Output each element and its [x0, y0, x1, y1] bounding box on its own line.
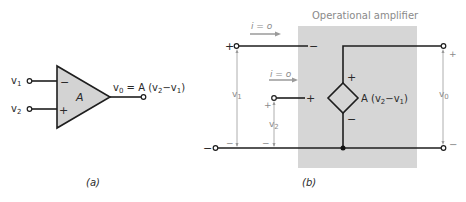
v0-label: v0	[439, 89, 449, 101]
v2-arrow-top	[273, 101, 276, 105]
v1-label: v1	[232, 89, 242, 101]
output-terminal	[141, 95, 146, 100]
v2-label: v2	[269, 119, 279, 131]
v2-minus-sign: −	[262, 138, 270, 148]
caption-a: (a)	[86, 177, 100, 188]
v0-plus-sign: +	[449, 49, 457, 59]
op-amp-diagram: v1 v2 − + A v0 = A (v2−v1) (a) Operation…	[0, 0, 466, 202]
input1-terminal	[27, 79, 32, 84]
current2-arrowhead	[292, 78, 298, 83]
v0-minus-sign: −	[449, 139, 457, 150]
figure-a: v1 v2 − + A v0 = A (v2−v1) (a)	[11, 66, 185, 188]
current2-label: i = o	[270, 69, 292, 79]
current1-arrowhead	[275, 32, 281, 37]
v1-arrow-bottom	[236, 143, 239, 147]
output-terminal-top	[441, 44, 446, 49]
junction-dot	[341, 146, 346, 151]
current1-label: i = o	[251, 21, 273, 31]
input2-terminal	[27, 107, 32, 112]
source-minus-sign: −	[347, 113, 356, 126]
v1-label: v1	[11, 75, 21, 88]
v2-label: v2	[11, 103, 21, 116]
output-equation: v0 = A (v2−v1)	[113, 82, 185, 95]
v2-plus-sign: +	[264, 100, 272, 110]
source-plus-sign: +	[347, 71, 356, 84]
gain-label: A	[75, 91, 84, 104]
ground-minus-sign: −	[203, 142, 212, 155]
v1-arrow-top	[236, 49, 239, 53]
v1-plus-sign: +	[225, 40, 234, 53]
v0-arrow-top	[442, 49, 445, 53]
inverting-terminal	[234, 44, 239, 49]
v0-arrow-bottom	[442, 141, 445, 145]
output-terminal-bottom	[441, 146, 446, 151]
noninverting-sign: +	[59, 104, 68, 117]
figure-b: Operational amplifier − + + + − + − A (v…	[203, 10, 457, 188]
v2-arrow-bottom	[273, 143, 276, 147]
v1-minus-sign: −	[226, 138, 234, 148]
ground-terminal	[213, 146, 218, 151]
box-plus-sign: +	[306, 92, 315, 105]
noninverting-terminal	[272, 96, 277, 101]
caption-b: (b)	[302, 177, 316, 188]
box-minus-sign: −	[309, 40, 318, 53]
box-title: Operational amplifier	[312, 10, 419, 21]
inverting-sign: −	[60, 76, 69, 89]
